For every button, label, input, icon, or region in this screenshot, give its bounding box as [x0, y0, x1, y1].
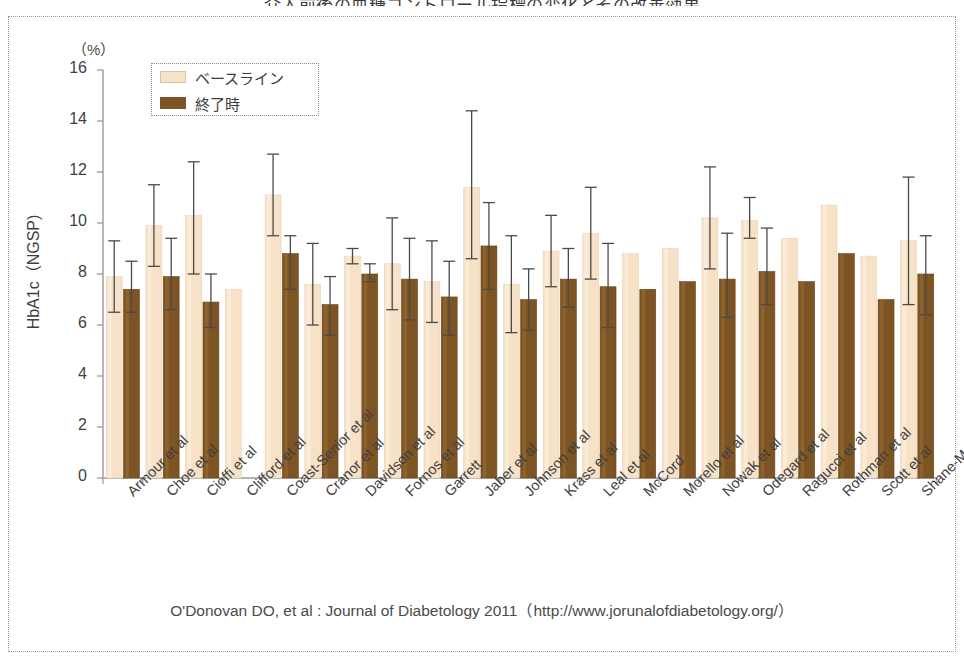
y-tick-label: 6: [57, 314, 87, 332]
y-tick-label: 16: [57, 59, 87, 77]
legend-item-baseline: ベースライン: [152, 64, 318, 90]
chart-legend: ベースライン 終了時: [151, 63, 319, 116]
plot-area: （%） HbA1c（NGSP) ベースライン 終了時 0246810121416…: [0, 0, 964, 660]
legend-swatch-baseline: [160, 71, 186, 83]
y-tick-label: 8: [57, 263, 87, 281]
bar-chart-svg: [0, 0, 964, 660]
unit-label: （%）: [72, 38, 115, 59]
legend-swatch-endpoint: [160, 97, 186, 109]
legend-label-baseline: ベースライン: [195, 67, 284, 88]
legend-item-endpoint: 終了時: [152, 90, 318, 116]
y-tick-label: 0: [57, 467, 87, 485]
source-caption: O'Donovan DO, et al : Journal of Diabeto…: [0, 598, 964, 620]
y-tick-label: 12: [57, 161, 87, 179]
y-axis-label: HbA1c（NGSP): [20, 207, 44, 337]
legend-label-endpoint: 終了時: [195, 93, 240, 114]
y-tick-label: 2: [57, 416, 87, 434]
y-tick-label: 14: [57, 110, 87, 128]
y-tick-label: 4: [57, 365, 87, 383]
figure-container: 介入前後の血糖コントロール指標の変化とその改善効果 （%） HbA1c（NGSP…: [0, 0, 964, 660]
y-tick-label: 10: [57, 212, 87, 230]
